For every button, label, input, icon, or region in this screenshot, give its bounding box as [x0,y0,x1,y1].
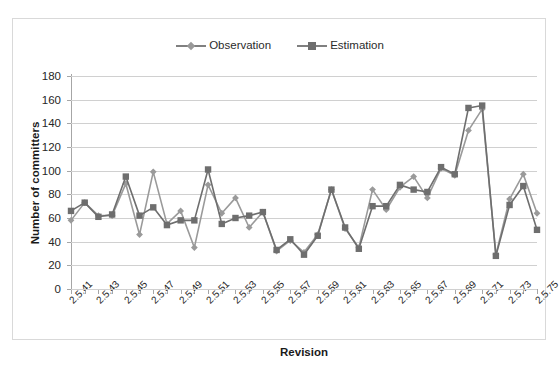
data-point-square-marker [260,209,266,215]
data-point-square-marker [479,102,485,108]
data-point-square-marker [534,227,540,233]
legend-marker-square-icon [297,40,327,51]
y-axis-tick-label: 160 [42,94,61,106]
data-point-square-marker [205,166,211,172]
data-point-square-marker [164,222,170,228]
data-point-square-marker [315,233,321,239]
data-point-diamond-marker [191,244,198,251]
y-axis-tick-label: 60 [48,212,61,224]
legend-item-estimation[interactable]: Estimation [297,39,384,51]
y-axis-tick-label: 140 [42,117,61,129]
data-point-diamond-marker [520,171,527,178]
data-point-square-marker [452,171,458,177]
data-point-square-marker [287,236,293,242]
series-observation [68,106,541,258]
plot-area [71,76,537,289]
y-axis-tick-label: 100 [42,165,61,177]
data-point-square-marker [273,247,279,253]
data-point-square-marker [150,204,156,210]
gridline [71,289,537,290]
data-point-square-marker [136,212,142,218]
y-axis-tick-label: 120 [42,141,61,153]
data-point-square-marker [424,189,430,195]
legend-label-observation: Observation [209,39,271,51]
data-point-square-marker [506,202,512,208]
data-point-square-marker [109,211,115,217]
data-point-square-marker [520,183,526,189]
data-point-square-marker [232,215,238,221]
data-point-square-marker [219,221,225,227]
data-series-layer [71,76,537,289]
data-point-square-marker [328,186,334,192]
legend-label-estimation: Estimation [330,39,384,51]
x-axis-title: Revision [71,346,537,358]
y-axis-tick-label: 40 [48,236,61,248]
data-point-square-marker [177,217,183,223]
data-point-diamond-marker [136,231,143,238]
data-point-square-marker [68,208,74,214]
data-point-square-marker [383,203,389,209]
chart-container: Observation Estimation Number of committ… [0,0,559,368]
chart-frame: Observation Estimation Number of committ… [12,18,546,340]
y-axis-tick-label: 0 [55,283,61,295]
data-point-diamond-marker [534,210,541,217]
data-point-square-marker [342,224,348,230]
data-point-square-marker [301,251,307,257]
data-point-square-marker [410,186,416,192]
data-point-square-marker [369,203,375,209]
data-point-square-marker [82,199,88,205]
data-point-square-marker [95,214,101,220]
data-point-square-marker [465,105,471,111]
chart-legend: Observation Estimation [13,39,547,51]
data-point-square-marker [123,173,129,179]
data-point-square-marker [438,164,444,170]
data-point-square-marker [191,217,197,223]
data-point-square-marker [397,182,403,188]
y-axis-title-text: Number of committers [29,121,41,244]
legend-marker-diamond-icon [176,40,206,51]
data-point-diamond-marker [150,168,157,175]
y-axis-tick-label: 20 [48,259,61,271]
y-axis-tick-label: 180 [42,70,61,82]
data-point-square-marker [493,253,499,259]
y-axis-tick-label: 80 [48,188,61,200]
data-point-diamond-marker [205,181,212,188]
data-point-square-marker [356,246,362,252]
legend-item-observation[interactable]: Observation [176,39,271,51]
y-axis-title: Number of committers [27,76,43,289]
data-point-square-marker [246,212,252,218]
